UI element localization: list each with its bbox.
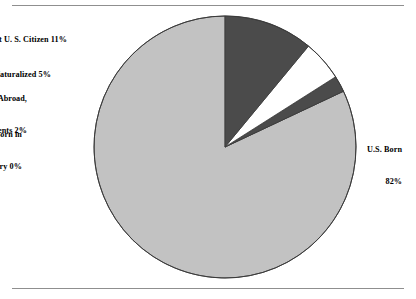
slice-label-us-born-line2: 82% — [367, 177, 402, 188]
slice-label-born-in-us-territory: Born in U. S.Territory 0% — [0, 109, 22, 193]
slice-label-born-abroad-line1: Born Abroad, — [0, 94, 27, 105]
slice-label-born-in-us-territory-line1: Born in — [0, 130, 22, 141]
slice-label-us-born-line1: U.S. Born — [367, 145, 402, 156]
slice-label-not-us-citizen-line1: Not U. S. Citizen 11% — [0, 35, 67, 46]
slice-label-us-born: U.S. Born 82% — [367, 124, 402, 208]
pie-slices-group — [94, 16, 356, 278]
pie-chart-figure: Not U. S. Citizen 11% Naturalized 5% Bor… — [0, 0, 416, 299]
slice-label-born-in-us-territory-line2: U. S.Territory 0% — [0, 162, 22, 173]
